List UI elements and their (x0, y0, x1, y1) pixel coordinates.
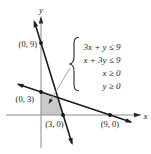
inequality-3: x ≥ 0 (102, 68, 121, 78)
steep-line-upper-arrow-icon (34, 20, 39, 27)
steep-line-lower-arrow-icon (68, 138, 72, 145)
shallow-line-lower-arrow-icon (125, 118, 132, 122)
label-3-0: (3, 0) (45, 119, 64, 129)
graph-svg: y x (0, 9) (0, 3) (3, 0) (9, 0) 3x + y ≤… (0, 0, 151, 154)
point-0-9 (39, 41, 43, 45)
label-0-9: (0, 9) (19, 39, 38, 49)
y-axis-arrow-icon (39, 16, 44, 24)
x-axis-arrow-icon (134, 113, 142, 118)
shallow-line-upper-arrow-icon (17, 84, 24, 88)
y-axis-label: y (38, 5, 43, 15)
inequality-4: y ≥ 0 (102, 81, 121, 91)
point-0-3 (39, 90, 43, 94)
inequality-graph-figure: y x (0, 9) (0, 3) (3, 0) (9, 0) 3x + y ≤… (0, 0, 151, 154)
inequality-1: 3x + y ≤ 9 (82, 42, 121, 52)
inequality-2: x + 3y ≤ 9 (82, 55, 121, 65)
point-3-0 (61, 113, 65, 117)
x-axis-label: x (143, 111, 148, 121)
label-0-3: (0, 3) (16, 94, 35, 104)
point-9-0 (108, 113, 112, 117)
system-brace-icon (69, 37, 78, 91)
label-9-0: (9, 0) (101, 119, 120, 129)
